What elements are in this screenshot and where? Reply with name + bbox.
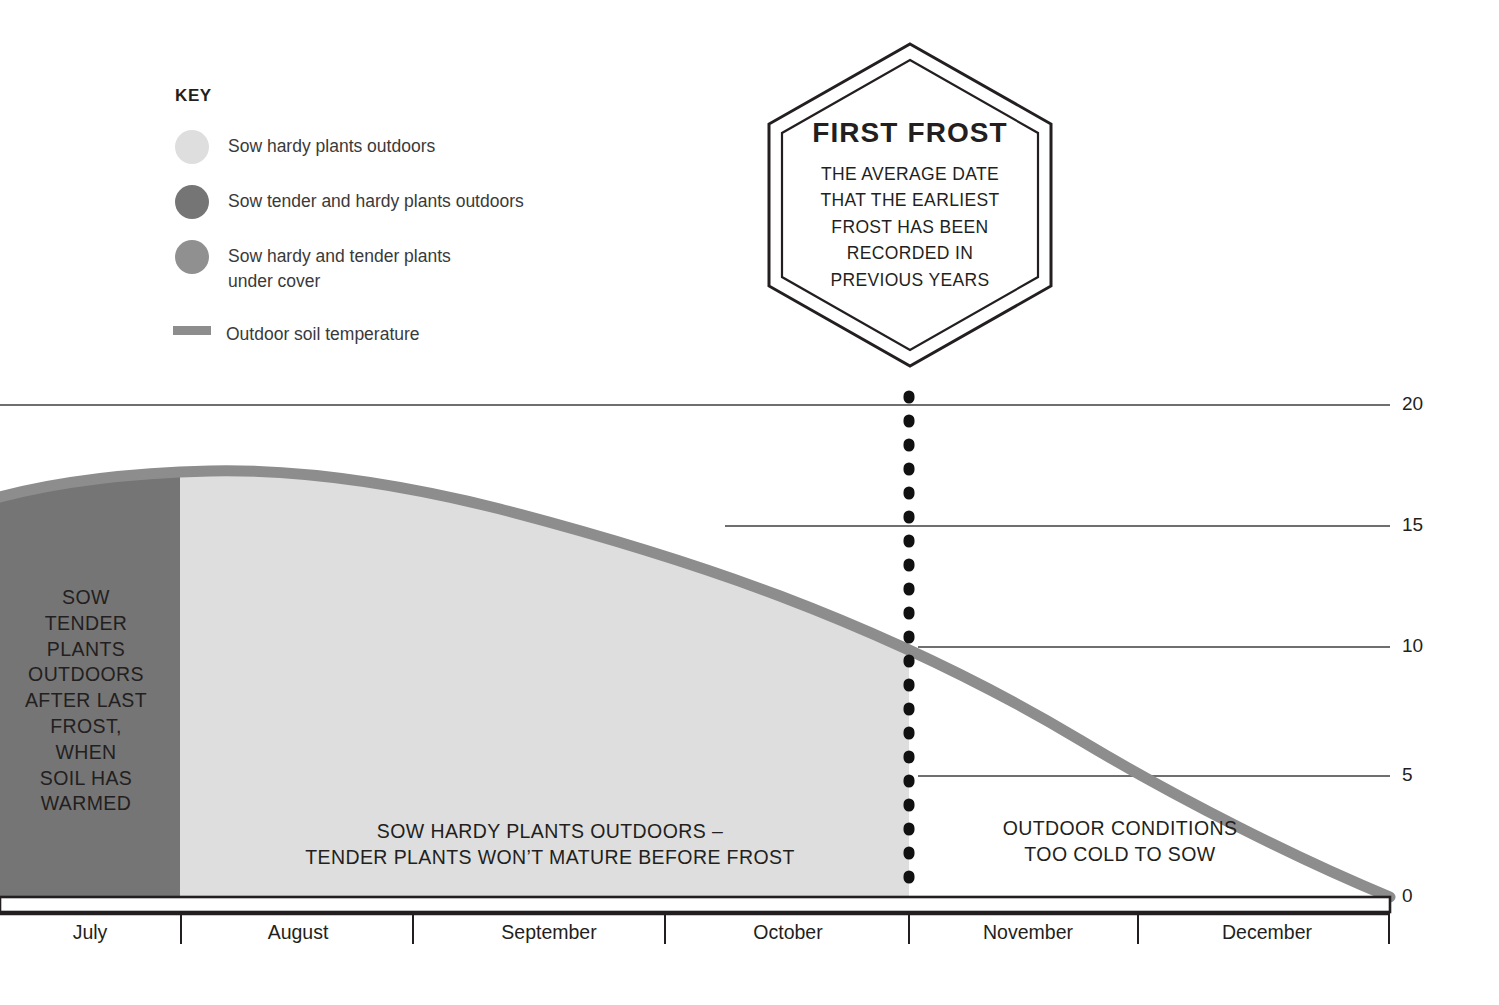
band-label-too-cold: OUTDOOR CONDITIONS TOO COLD TO SOW (940, 815, 1300, 867)
band-label-sow-tender: SOW TENDER PLANTS OUTDOORS AFTER LAST FR… (0, 585, 172, 817)
band-label-sow-hardy: SOW HARDY PLANTS OUTDOORS – TENDER PLANT… (255, 818, 845, 870)
badge-title: FIRST FROST (812, 117, 1008, 149)
ylabel-15: 15 (1402, 514, 1462, 536)
month-label-december: December (1197, 921, 1337, 944)
line-swatch-icon (173, 326, 211, 335)
month-label-july: July (20, 921, 160, 944)
legend-item-tender-hardy-outdoors: Sow tender and hardy plants outdoors (175, 185, 795, 219)
month-label-october: October (718, 921, 858, 944)
legend-title: KEY (175, 86, 795, 106)
legend-item-hardy-outdoors: Sow hardy plants outdoors (175, 130, 795, 164)
circle-swatch-medium-icon (175, 240, 209, 274)
first-frost-badge: FIRST FROST THE AVERAGE DATE THAT THE EA… (763, 38, 1057, 372)
legend-item-label: Outdoor soil temperature (226, 315, 420, 347)
badge-body: THE AVERAGE DATE THAT THE EARLIEST FROST… (820, 161, 999, 294)
circle-swatch-dark-icon (175, 185, 209, 219)
legend-item-label: Sow hardy and tender plants under cover (228, 240, 451, 294)
legend-item-label: Sow tender and hardy plants outdoors (228, 185, 524, 214)
legend-item-under-cover: Sow hardy and tender plants under cover (175, 240, 795, 294)
ylabel-5: 5 (1402, 764, 1462, 786)
legend-item-soil-temperature: Outdoor soil temperature (175, 315, 795, 347)
legend-item-label: Sow hardy plants outdoors (228, 130, 435, 159)
ylabel-20: 20 (1402, 393, 1462, 415)
ylabel-10: 10 (1402, 635, 1462, 657)
infographic-canvas: KEY Sow hardy plants outdoors Sow tender… (0, 0, 1499, 1005)
circle-swatch-light-icon (175, 130, 209, 164)
x-axis-svg (0, 897, 1499, 992)
month-label-august: August (228, 921, 368, 944)
month-label-november: November (958, 921, 1098, 944)
badge-text-block: FIRST FROST THE AVERAGE DATE THAT THE EA… (763, 38, 1057, 372)
legend-key: KEY Sow hardy plants outdoors Sow tender… (175, 86, 795, 368)
chart-x-axis: July August September October November D… (0, 897, 1499, 992)
month-label-september: September (479, 921, 619, 944)
